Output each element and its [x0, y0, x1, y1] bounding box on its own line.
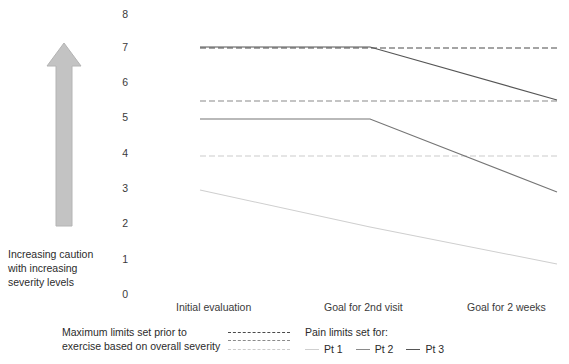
legend-pain-limits-items: Pt 1 Pt 2 Pt 3	[305, 342, 457, 356]
x-tick-initial-evaluation: Initial evaluation	[176, 301, 251, 313]
legend-label-pt-3: Pt 3	[425, 342, 444, 356]
legend-label-pt-1: Pt 1	[324, 342, 343, 356]
legend-swatch-pt-3	[406, 349, 420, 350]
legend-max-limits-line-1: Maximum limits set prior to	[62, 325, 220, 339]
legend-swatch-pt-1	[305, 349, 319, 350]
legend-swatch-pt-2	[356, 349, 370, 350]
chart-figure: 8 7 6 5 4 3 2 1 0 Initial evaluation Goa…	[0, 0, 569, 364]
caption-line-3: severity levels	[8, 275, 112, 289]
legend-dash-severity-1	[228, 349, 290, 350]
x-tick-goal-2-weeks: Goal for 2 weeks	[467, 301, 546, 313]
legend-item-pt-1: Pt 1	[305, 342, 343, 356]
legend-item-pt-2: Pt 2	[356, 342, 394, 356]
series-line-pt-2	[200, 119, 557, 192]
x-tick-goal-2nd-visit: Goal for 2nd visit	[324, 301, 403, 313]
legend-max-limits-line-2: exercise based on overall severity	[62, 339, 220, 353]
caption-line-1: Increasing caution	[8, 247, 112, 261]
legend-pain-limits-title: Pain limits set for:	[305, 325, 388, 339]
legend-max-limits-keys	[228, 328, 290, 354]
increasing-caution-arrow-icon	[47, 43, 81, 226]
series-line-pt-3	[200, 47, 557, 100]
chart-legend: Maximum limits set prior to exercise bas…	[0, 325, 569, 364]
legend-item-pt-3: Pt 3	[406, 342, 444, 356]
legend-label-pt-2: Pt 2	[375, 342, 394, 356]
legend-dash-severity-2	[228, 340, 290, 341]
increasing-caution-caption: Increasing caution with increasing sever…	[8, 247, 112, 289]
legend-dash-severity-3	[228, 332, 290, 333]
caption-line-2: with increasing	[8, 261, 112, 275]
series-line-pt-1	[200, 190, 557, 264]
legend-max-limits-text: Maximum limits set prior to exercise bas…	[62, 325, 220, 353]
